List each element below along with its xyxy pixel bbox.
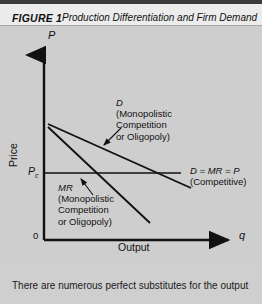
competitive-annotation-line-1: (Competitive) [190, 176, 247, 187]
competitive-price-label: Pc [28, 165, 39, 179]
y-axis-symbol: P [48, 29, 55, 41]
figure-caption: There are numerous perfect substitutes f… [0, 259, 262, 304]
mr-annotation: MR (Monopolistic Competition or Oligopol… [58, 182, 114, 227]
demand-annotation-line-3: or Oligopoly) [116, 131, 172, 142]
competitive-price-subscript: c [35, 172, 39, 179]
mr-annotation-symbol: MR [58, 182, 114, 193]
figure-header: FIGURE 1 Production Differentiation and … [0, 0, 262, 26]
figure-card: FIGURE 1 Production Differentiation and … [0, 0, 262, 304]
demand-annotation-line-2: Competition [116, 119, 172, 130]
demand-annotation-symbol: D [116, 97, 172, 108]
competitive-annotation-symbol: D = MR = P [190, 165, 247, 176]
competitive-annotation: D = MR = P (Competitive) [190, 165, 247, 187]
figure-title: Production Differentiation and Firm Dema… [62, 12, 257, 23]
mr-annotation-line-1: (Monopolistic [58, 193, 114, 204]
mr-annotation-line-2: Competition [58, 204, 114, 215]
demand-annotation-line-1: (Monopolistic [116, 108, 172, 119]
x-axis-symbol: q [239, 229, 245, 241]
origin-label: 0 [33, 230, 38, 241]
x-axis-name: Output [118, 241, 150, 253]
figure-caption-text: There are numerous perfect substitutes f… [12, 279, 252, 292]
figure-number-label: FIGURE 1 [12, 12, 62, 24]
chart-svg [0, 27, 262, 259]
chart-plot-area: P q Price Output 0 Pc D (Monopolistic Co… [0, 27, 262, 259]
mr-annotation-line-3: or Oligopoly) [58, 216, 114, 227]
competitive-price-symbol: P [28, 165, 35, 177]
y-axis-name: Price [7, 130, 19, 180]
demand-annotation: D (Monopolistic Competition or Oligopoly… [116, 97, 172, 142]
